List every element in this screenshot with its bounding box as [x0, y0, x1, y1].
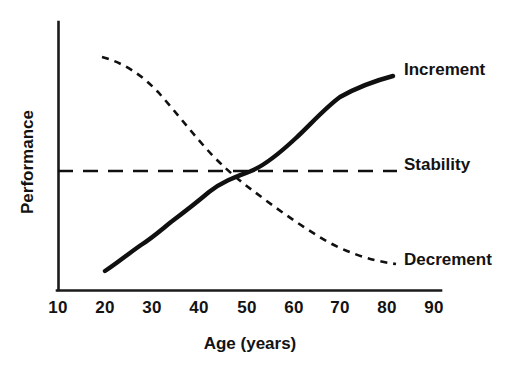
x-tick-label-60: 60 [274, 298, 314, 318]
x-tick-label-30: 30 [132, 298, 172, 318]
series-label-decrement: Decrement [404, 250, 492, 270]
y-axis-title: Performance [18, 82, 38, 242]
series-decrement-line [102, 57, 396, 264]
series-label-increment: Increment [404, 60, 485, 80]
series-label-stability: Stability [404, 155, 470, 175]
x-tick-label-70: 70 [320, 298, 360, 318]
x-tick-label-90: 90 [414, 298, 454, 318]
x-tick-label-50: 50 [227, 298, 267, 318]
x-tick-label-20: 20 [85, 298, 125, 318]
series-increment-line [105, 76, 393, 271]
x-axis-title: Age (years) [170, 333, 330, 355]
chart-plot-area [0, 0, 532, 378]
x-tick-label-40: 40 [179, 298, 219, 318]
x-tick-label-10: 10 [38, 298, 78, 318]
chart-figure: 10 20 30 40 50 60 70 80 90 Age (years) P… [0, 0, 532, 378]
x-tick-label-80: 80 [367, 298, 407, 318]
